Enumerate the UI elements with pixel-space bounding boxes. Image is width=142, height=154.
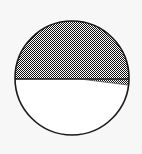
figure-container <box>0 0 142 154</box>
circle-segment-diagram <box>0 0 142 154</box>
